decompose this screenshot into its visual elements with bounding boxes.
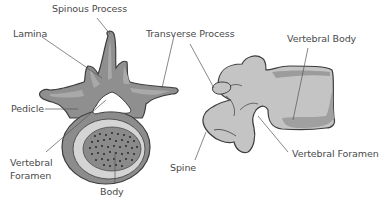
label-side-vertebral-foramen: Vertebral Foramen [292, 148, 379, 160]
label-spine: Spine [170, 162, 196, 174]
label-pedicle: Pedicle [11, 103, 44, 115]
label-spinous-process: Spinous Process [52, 3, 127, 15]
label-body: Body [100, 186, 124, 198]
label-vertebral-foramen-line1: Vertebral [10, 157, 53, 169]
label-transverse-process: Transverse Process [146, 28, 235, 40]
label-vertebral-foramen-line2: Foramen [10, 170, 51, 182]
top-view-vertebra [40, 31, 178, 184]
label-vertebral-body: Vertebral Body [287, 33, 356, 45]
side-vertebra-shape [203, 56, 334, 153]
side-view-vertebra [203, 56, 334, 153]
label-lamina: Lamina [13, 28, 47, 40]
